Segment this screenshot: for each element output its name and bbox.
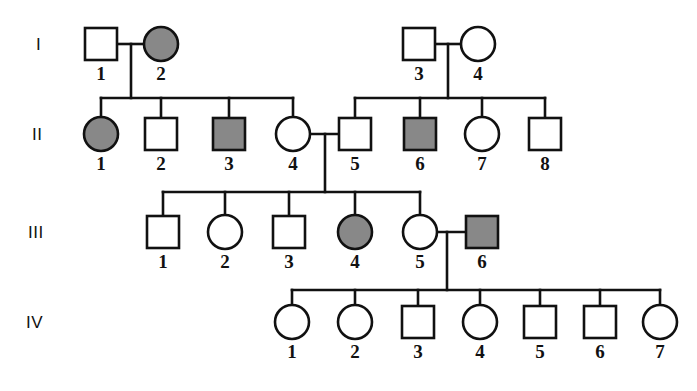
generation-labels-layer: IIIIIIIV bbox=[26, 35, 44, 332]
id-label-III-2: 2 bbox=[220, 251, 230, 272]
individual-symbols-layer bbox=[84, 27, 677, 339]
id-label-III-1: 1 bbox=[158, 251, 168, 272]
id-label-II-8: 8 bbox=[540, 153, 550, 174]
individual-III-2-circle-unaffected[interactable] bbox=[208, 215, 242, 249]
id-label-III-4: 4 bbox=[350, 251, 360, 272]
id-label-I-2: 2 bbox=[156, 63, 166, 84]
individual-IV-5-square-unaffected[interactable] bbox=[524, 306, 556, 338]
id-label-II-3: 3 bbox=[224, 153, 234, 174]
id-label-IV-4: 4 bbox=[475, 341, 485, 362]
id-label-IV-1: 1 bbox=[287, 341, 297, 362]
generation-label-II: II bbox=[32, 125, 42, 144]
generation-label-I: I bbox=[36, 35, 41, 54]
individual-III-4-circle-affected[interactable] bbox=[338, 215, 372, 249]
id-label-II-1: 1 bbox=[96, 153, 106, 174]
id-label-II-7: 7 bbox=[477, 153, 487, 174]
individual-II-1-circle-affected[interactable] bbox=[84, 117, 118, 151]
id-label-I-1: 1 bbox=[96, 63, 106, 84]
individual-II-2-square-unaffected[interactable] bbox=[145, 118, 177, 150]
individual-I-2-circle-affected[interactable] bbox=[144, 27, 178, 61]
id-label-III-3: 3 bbox=[284, 251, 294, 272]
id-label-II-2: 2 bbox=[156, 153, 166, 174]
id-label-III-5: 5 bbox=[415, 251, 425, 272]
individual-I-4-circle-unaffected[interactable] bbox=[461, 27, 495, 61]
individual-II-7-circle-unaffected[interactable] bbox=[465, 117, 499, 151]
individual-III-1-square-unaffected[interactable] bbox=[147, 216, 179, 248]
individual-IV-4-circle-unaffected[interactable] bbox=[463, 305, 497, 339]
id-label-IV-2: 2 bbox=[350, 341, 360, 362]
individual-II-3-square-affected[interactable] bbox=[213, 118, 245, 150]
individual-IV-1-circle-unaffected[interactable] bbox=[275, 305, 309, 339]
individual-II-4-circle-unaffected[interactable] bbox=[276, 117, 310, 151]
individual-IV-3-square-unaffected[interactable] bbox=[402, 306, 434, 338]
individual-id-labels-layer: 1234123456781234561234567 bbox=[96, 63, 665, 362]
id-label-IV-3: 3 bbox=[413, 341, 423, 362]
individual-II-5-square-unaffected[interactable] bbox=[339, 118, 371, 150]
individual-I-3-square-unaffected[interactable] bbox=[403, 28, 435, 60]
id-label-I-4: 4 bbox=[473, 63, 483, 84]
id-label-II-6: 6 bbox=[415, 153, 425, 174]
individual-I-1-square-unaffected[interactable] bbox=[85, 28, 117, 60]
pedigree-chart: 1234123456781234561234567 IIIIIIIV bbox=[0, 0, 697, 391]
connector-lines-layer bbox=[101, 44, 660, 306]
id-label-III-6: 6 bbox=[477, 251, 487, 272]
individual-IV-7-circle-unaffected[interactable] bbox=[643, 305, 677, 339]
id-label-I-3: 3 bbox=[414, 63, 424, 84]
individual-II-6-square-affected[interactable] bbox=[404, 118, 436, 150]
id-label-IV-6: 6 bbox=[595, 341, 605, 362]
pedigree-canvas: 1234123456781234561234567 IIIIIIIV bbox=[0, 0, 697, 391]
id-label-IV-7: 7 bbox=[655, 341, 665, 362]
generation-label-IV: IV bbox=[26, 313, 43, 332]
id-label-IV-5: 5 bbox=[535, 341, 545, 362]
individual-III-6-square-affected[interactable] bbox=[466, 216, 498, 248]
individual-IV-2-circle-unaffected[interactable] bbox=[338, 305, 372, 339]
individual-II-8-square-unaffected[interactable] bbox=[529, 118, 561, 150]
individual-III-5-circle-unaffected[interactable] bbox=[403, 215, 437, 249]
id-label-II-4: 4 bbox=[288, 153, 298, 174]
individual-IV-6-square-unaffected[interactable] bbox=[584, 306, 616, 338]
individual-III-3-square-unaffected[interactable] bbox=[273, 216, 305, 248]
generation-label-III: III bbox=[28, 223, 44, 242]
id-label-II-5: 5 bbox=[350, 153, 360, 174]
